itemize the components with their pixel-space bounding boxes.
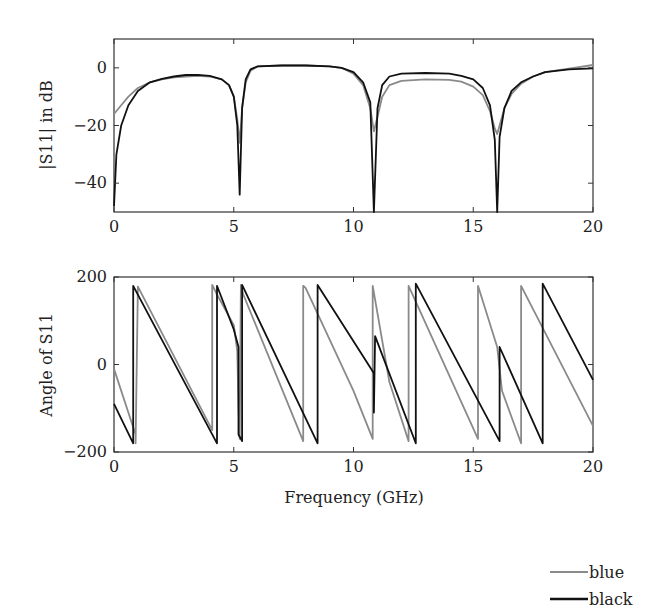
y-tick-label: 200 xyxy=(76,267,107,286)
x-tick-label: 0 xyxy=(109,457,119,476)
phase-plot: 05101520 2000−200 Angle of S11 Frequency… xyxy=(37,267,603,507)
phase-x-ticks: 05101520 xyxy=(109,277,603,476)
x-tick-label: 5 xyxy=(229,217,239,236)
x-tick-label: 5 xyxy=(229,457,239,476)
series-blue-line xyxy=(114,65,593,143)
y-tick-label: 0 xyxy=(97,355,107,374)
x-tick-label: 10 xyxy=(343,457,363,476)
x-axis-label: Frequency (GHz) xyxy=(284,488,423,507)
y-tick-label: −20 xyxy=(73,116,107,135)
x-tick-label: 20 xyxy=(583,217,603,236)
x-tick-label: 10 xyxy=(343,217,363,236)
magnitude-y-axis-label: |S11| in dB xyxy=(37,80,56,170)
magnitude-plot-frame xyxy=(114,39,593,212)
x-tick-label: 0 xyxy=(109,217,119,236)
series-blue-line xyxy=(114,285,593,443)
magnitude-plot: 05101520 0−20−40 |S11| in dB xyxy=(37,39,603,236)
phase-y-axis-label: Angle of S11 xyxy=(37,313,56,418)
chart-figure: 05101520 0−20−40 |S11| in dB 05101520 20… xyxy=(0,0,670,608)
magnitude-y-ticks: 0−20−40 xyxy=(73,58,593,192)
magnitude-x-ticks: 05101520 xyxy=(109,39,603,236)
y-tick-label: −40 xyxy=(73,173,107,192)
x-tick-label: 20 xyxy=(583,457,603,476)
y-tick-label: −200 xyxy=(63,442,107,461)
x-tick-label: 15 xyxy=(463,217,483,236)
legend: blueblack xyxy=(550,563,633,608)
series-black-line xyxy=(114,66,593,213)
legend-label-black: black xyxy=(589,590,633,608)
magnitude-series-layer xyxy=(114,65,593,212)
legend-label-blue: blue xyxy=(589,563,624,582)
phase-series-layer xyxy=(114,284,593,444)
x-tick-label: 15 xyxy=(463,457,483,476)
y-tick-label: 0 xyxy=(97,58,107,77)
